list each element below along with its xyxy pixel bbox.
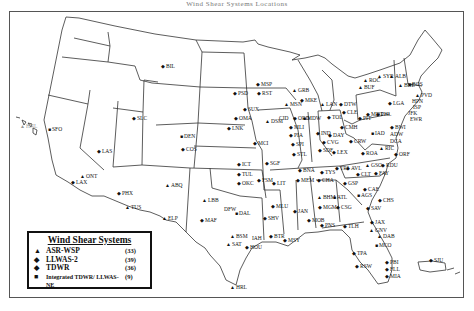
station-marker-icon: ◆ — [332, 150, 336, 155]
station-dtw: ◆DTW — [339, 101, 357, 108]
station-label: LAN — [326, 101, 337, 107]
station-label: AGS — [361, 192, 372, 198]
station-marker-icon: ▲ — [317, 195, 322, 200]
station-orf: ◆ORF — [394, 151, 410, 158]
station-label: PNS — [325, 222, 335, 228]
station-label: BSM — [236, 233, 248, 239]
station-bsm: ▲BSM — [230, 233, 248, 240]
station-lax: ◆LAX — [71, 179, 87, 186]
station-elp: ▲ELP — [162, 215, 178, 222]
station-marker-icon: ◆ — [298, 168, 302, 173]
legend-box: Wind Shear Systems ▲ ASR-WSP (33) ◆ LLWA… — [27, 231, 152, 289]
station-label: SPI — [296, 141, 304, 147]
station-marker-icon: ▲ — [165, 183, 170, 188]
station-marker-icon: ◆ — [366, 112, 370, 117]
station-marker-icon: ◆ — [376, 112, 380, 117]
station-marker-icon: ◆ — [293, 116, 297, 121]
station-sgf: ◆SGF — [265, 160, 280, 167]
station-marker-icon: ◆ — [343, 181, 347, 186]
station-ric: ▲RIC — [379, 145, 394, 152]
station-maf: ◆MAF — [200, 217, 217, 224]
station-label: STL — [297, 151, 307, 157]
station-shv: ◆SHV — [263, 215, 279, 222]
station-marker-icon: ◆ — [181, 147, 185, 152]
station-label: SLC — [137, 115, 147, 121]
station-marker-icon: ◆ — [71, 180, 75, 185]
station-marker-icon: ◆ — [291, 142, 295, 147]
station-label: LNK — [232, 125, 243, 131]
station-label: BOS — [412, 81, 423, 87]
station-label: ONT — [86, 173, 97, 179]
station-marker-icon: ▲ — [320, 102, 325, 107]
station-ict: ◆ICT — [237, 161, 251, 168]
station-rst: ◆RST — [257, 90, 272, 97]
station-label: LEX — [337, 149, 348, 155]
station-label: MSN — [290, 101, 302, 107]
station-fll: ◆FLL — [385, 266, 400, 273]
station-marker-icon: ▲ — [389, 74, 394, 79]
station-clt: ◆CLT — [356, 171, 371, 178]
station-lbb: ▲LBB — [202, 197, 219, 204]
station-label: CHS — [383, 197, 394, 203]
station-marker-icon: ▲ — [162, 216, 167, 221]
station-marker-icon: ▲ — [80, 174, 85, 179]
station-label: ELP — [168, 215, 178, 221]
station-marker-icon: ▲ — [377, 74, 382, 79]
triangle-icon: ▲ — [34, 247, 46, 256]
station-label: HNL — [26, 123, 37, 129]
station-label: MLI — [294, 124, 304, 130]
station-den: ■DEN — [180, 133, 195, 140]
station-marker-icon: ◆ — [289, 125, 293, 130]
station-label: MSY — [288, 237, 300, 243]
station-marker-icon: ◆ — [265, 161, 269, 166]
station-pia: ◆PIA — [289, 132, 303, 139]
station-mgm: ◆MGM — [318, 204, 337, 211]
station-jax: ◆JAX — [370, 219, 385, 226]
station-label: GSP — [348, 180, 358, 186]
station-marker-icon: ■ — [180, 134, 183, 139]
station-label: MCI — [258, 140, 268, 146]
station-atl: ■ATL — [333, 194, 347, 201]
station-label: ALB — [395, 73, 406, 79]
station-marker-icon: ◆ — [320, 223, 324, 228]
station-lit: ◆LIT — [272, 180, 286, 187]
station-cid: CID — [279, 115, 288, 121]
station-label: JAX — [375, 219, 385, 225]
station-psd: ◆PSD — [233, 90, 248, 97]
station-marker-icon: ◆ — [335, 166, 339, 171]
station-label: BUF — [364, 84, 375, 90]
station-msp: ◆MSP — [256, 81, 272, 88]
station-marker-icon: ▲ — [358, 85, 363, 90]
station-marker-icon: ◆ — [390, 125, 394, 130]
station-marker-icon: ◆ — [394, 152, 398, 157]
station-marker-icon: ■ — [333, 195, 336, 200]
station-day: ◆DAY — [328, 132, 344, 139]
station-label: FAY — [379, 170, 389, 176]
station-spi: ◆SPI — [291, 141, 304, 148]
station-pbi: ◆PBI — [385, 259, 399, 266]
station-label: CRW — [354, 138, 366, 144]
station-okc: ◆OKC — [237, 180, 254, 187]
station-marker-icon: ◆ — [327, 115, 331, 120]
station-hnl: ▲HNL — [20, 123, 37, 130]
station-marker-icon: ◆ — [257, 91, 261, 96]
station-label: HRL — [236, 284, 247, 290]
station-lnk: ◆LNK — [227, 125, 243, 132]
station-label: OKC — [242, 180, 254, 186]
station-sux: ◆SUX — [243, 106, 259, 113]
station-marker-icon: ■ — [235, 211, 238, 216]
station-marker-icon: ◆ — [355, 264, 359, 269]
station-marker-icon: ◆ — [339, 102, 343, 107]
station-marker-icon: ■ — [357, 193, 360, 198]
station-msy: ◆MSY — [283, 237, 300, 244]
station-mdw: ■MDW — [303, 115, 321, 122]
station-label: MIA — [390, 273, 401, 279]
station-dal: ■DAL — [235, 210, 250, 217]
station-label: ADW — [390, 131, 403, 137]
station-marker-icon: ◆ — [318, 205, 322, 210]
station-mci: ◆MCI — [253, 140, 268, 147]
station-marker-icon: ◆ — [283, 238, 287, 243]
station-marker-icon: ◆ — [370, 220, 374, 225]
station-msn: ▲MSN — [284, 101, 302, 108]
station-label: ATL — [337, 194, 347, 200]
